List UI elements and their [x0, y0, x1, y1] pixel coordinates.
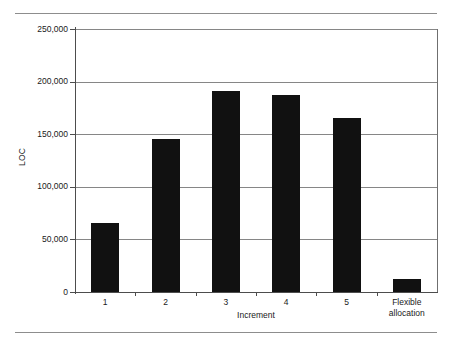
y-axis-tick-label: 100,000 — [6, 182, 68, 191]
x-axis-title: Increment — [75, 310, 437, 320]
x-axis-tick — [377, 292, 378, 296]
page-rule-top — [15, 13, 437, 14]
x-axis-tick-label: 5 — [317, 297, 377, 308]
x-axis-tick-label: 3 — [196, 297, 256, 308]
y-axis-tick-label: 150,000 — [6, 130, 68, 139]
y-axis-tick-label: 50,000 — [6, 235, 68, 244]
y-axis-tick-label: 250,000 — [6, 25, 68, 34]
x-axis-tick — [256, 292, 257, 296]
bar-series — [75, 29, 437, 292]
page-rule-bottom — [15, 332, 437, 333]
bar-chart-figure: LOC 050,000100,000150,000200,000250,000 … — [0, 0, 453, 340]
y-axis-tick-label: 200,000 — [6, 77, 68, 86]
bar — [152, 139, 180, 292]
x-axis-tick-label: 4 — [256, 297, 316, 308]
x-axis-ticks — [75, 292, 437, 296]
x-axis-tick-label: 1 — [75, 297, 135, 308]
plot-right-border — [437, 29, 438, 292]
bar — [212, 91, 240, 292]
y-axis-tick-labels: 050,000100,000150,000200,000250,000 — [0, 0, 68, 340]
y-axis-tick-label: 0 — [6, 288, 68, 297]
bar — [333, 118, 361, 292]
x-axis-tick — [316, 292, 317, 296]
x-axis-tick — [135, 292, 136, 296]
bar — [272, 95, 300, 292]
x-axis-tick — [196, 292, 197, 296]
bar — [91, 223, 119, 292]
x-axis-tick-label: 2 — [136, 297, 196, 308]
bar — [393, 279, 421, 292]
